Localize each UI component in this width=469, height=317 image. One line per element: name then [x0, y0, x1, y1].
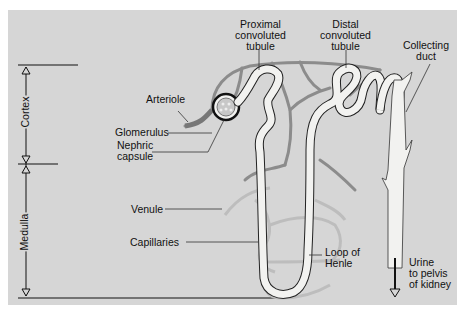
- capillary-network: [225, 188, 345, 298]
- region-label-medulla: Medulla: [18, 213, 30, 252]
- label-urine-to-pelvis: Urine to pelvis of kidney: [409, 257, 451, 290]
- label-venule: Venule: [131, 204, 163, 215]
- label-arteriole: Arteriole: [146, 94, 185, 105]
- glomerulus: [213, 94, 239, 120]
- label-loop-of-henle: Loop of Henle: [325, 247, 360, 269]
- label-nephric-capsule: Nephric capsule: [117, 140, 153, 162]
- label-distal-convoluted-tubule: Distal convoluted tubule: [318, 19, 373, 52]
- label-capillaries: Capillaries: [130, 237, 179, 248]
- collecting-duct: [380, 72, 412, 268]
- arteriole-vessel: [185, 110, 212, 126]
- label-glomerulus: Glomerulus: [115, 127, 169, 138]
- label-collecting-duct: Collecting duct: [396, 40, 456, 62]
- region-label-cortex: Cortex: [19, 96, 31, 129]
- label-proximal-convoluted-tubule: Proximal convoluted tubule: [233, 19, 288, 52]
